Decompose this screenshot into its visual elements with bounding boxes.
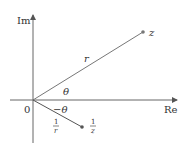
reciprocal-point [80,125,84,129]
one-over-r-label: 1 r [53,118,59,135]
z-segment [33,32,143,100]
svg-text:r: r [54,127,58,135]
complex-plane-diagram: Im Re 0 z r θ −θ 1 r 1 z [0,0,190,151]
re-axis-label: Re [164,104,178,115]
modulus-r-label: r [84,53,90,64]
svg-text:z: z [90,127,95,135]
origin-label: 0 [24,104,30,115]
minus-theta-label: −θ [53,104,67,115]
svg-text:1: 1 [54,118,58,126]
one-over-z-label: 1 z [90,118,96,135]
theta-label: θ [63,86,69,97]
svg-text:1: 1 [91,118,95,126]
im-axis-label: Im [17,15,31,26]
z-point [141,30,145,34]
z-label: z [148,27,155,38]
